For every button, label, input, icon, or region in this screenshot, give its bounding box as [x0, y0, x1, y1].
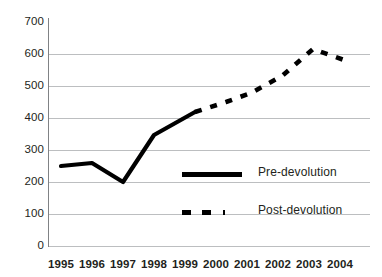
x-tick-label: 2004: [320, 258, 360, 270]
series-post-devolution-line: [195, 49, 344, 112]
legend-item-pre-devolution: Pre-devolution: [182, 163, 382, 201]
x-axis-ticks: 1995 1996 1997 1998 1999 2000 2001 2002 …: [0, 258, 382, 274]
series-pre-devolution-line: [61, 112, 195, 182]
line-chart: 700 600 500 400 300 200 100 0 Pre-devolu…: [0, 0, 382, 277]
legend-label: Post-devolution: [258, 203, 342, 217]
legend-item-post-devolution: Post-devolution: [182, 201, 382, 239]
legend-label: Pre-devolution: [258, 165, 337, 179]
legend-swatch-solid-line-icon: [182, 172, 242, 177]
chart-legend: Pre-devolution Post-devolution: [182, 163, 382, 239]
legend-swatch-dashed-line-icon: [182, 210, 242, 215]
